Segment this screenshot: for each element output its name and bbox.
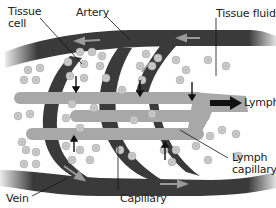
label-tissue-fluid: Tissue fluid [216, 8, 276, 20]
label-capillary: Capillary [120, 193, 167, 205]
label-lymph-capillary: Lymph capillary [232, 152, 276, 176]
label-tissue-cell-line2: cell [8, 18, 41, 30]
label-lymph-capillary-line2: capillary [232, 164, 276, 176]
diagram-illustration [0, 0, 276, 208]
label-artery: Artery [76, 7, 109, 19]
label-lymph: Lymph [244, 97, 276, 109]
label-vein: Vein [6, 193, 29, 205]
label-tissue-cell: Tissue cell [8, 6, 41, 30]
tissue-fluid-diagram: Tissue cell Artery Tissue fluid Lymph Ly… [0, 0, 276, 208]
